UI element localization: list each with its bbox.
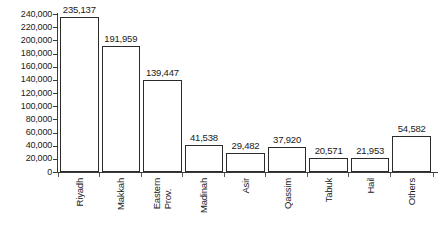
bar: [102, 46, 141, 172]
y-axis-tick-mark: [53, 172, 57, 173]
x-axis-category-label-line: Asir: [240, 178, 251, 194]
y-axis-tick-mark: [53, 146, 57, 147]
y-axis-tick-mark: [53, 54, 57, 55]
x-axis-category-label: Qassim: [282, 178, 293, 209]
y-axis-tick-mark: [53, 67, 57, 68]
bar-value-label: 37,920: [262, 135, 313, 145]
y-axis-tick-label: 120,000: [0, 89, 52, 98]
x-axis-category-label: Tabuk: [323, 178, 334, 202]
x-axis-tick-mark: [141, 173, 142, 177]
y-axis-tick-label: 240,000: [0, 10, 52, 19]
y-axis-tick-label: 200,000: [0, 36, 52, 45]
x-axis-category-label-line: Tabuk: [323, 178, 334, 202]
x-axis-category-label-line: Hail: [365, 178, 376, 194]
x-axis-category-label-line: Makkah: [115, 178, 126, 210]
x-axis-category-label: Riyadh: [74, 178, 85, 206]
y-axis-tick-mark: [53, 40, 57, 41]
bar: [226, 153, 265, 172]
y-axis-tick-label: 0: [0, 168, 52, 177]
y-axis-tick-label: 80,000: [0, 115, 52, 124]
x-axis-tick-mark: [348, 173, 349, 177]
x-axis-category-label: Makkah: [115, 178, 126, 210]
y-axis-tick-label: 160,000: [0, 62, 52, 71]
x-axis-category-label-line: Others: [406, 178, 417, 205]
bar-value-label: 54,582: [386, 124, 437, 134]
y-axis-tick-label: 40,000: [0, 141, 52, 150]
y-axis-tick-mark: [53, 119, 57, 120]
x-axis-line: [57, 172, 438, 173]
x-axis-tick-mark: [182, 173, 183, 177]
y-axis-tick-label: 220,000: [0, 23, 52, 32]
x-axis-tick-mark: [307, 173, 308, 177]
y-axis-tick-mark: [53, 93, 57, 94]
y-axis-tick-mark: [53, 27, 57, 28]
x-axis-category-label-line: Riyadh: [74, 178, 85, 206]
x-axis-tick-mark: [433, 173, 434, 177]
bar: [60, 17, 99, 172]
x-axis-tick-mark: [265, 173, 266, 177]
y-axis-tick-mark: [53, 159, 57, 160]
x-axis-category-label: Hail: [365, 178, 376, 194]
bar: [268, 147, 307, 172]
bar: [309, 158, 348, 172]
x-axis-category-label: Others: [406, 178, 417, 205]
bar-value-label: 191,959: [96, 34, 147, 44]
bar: [185, 145, 224, 172]
bar-value-label: 235,137: [54, 5, 105, 15]
x-axis-category-label-line: Prov.: [162, 178, 173, 209]
y-axis-tick-mark: [53, 80, 57, 81]
y-axis-tick-label: 140,000: [0, 75, 52, 84]
x-axis-tick-mark: [390, 173, 391, 177]
y-axis-tick-mark: [53, 133, 57, 134]
y-axis-tick-label: 20,000: [0, 154, 52, 163]
bar: [351, 158, 390, 172]
bar: [392, 136, 431, 172]
x-axis-tick-mark: [58, 173, 59, 177]
bar-chart: 240,000220,000200,000180,000160,000140,0…: [0, 0, 448, 236]
y-axis-tick-mark: [53, 106, 57, 107]
x-axis-category-label-line: Qassim: [282, 178, 293, 209]
x-axis-category-label: EasternProv.: [151, 178, 173, 209]
bar: [143, 80, 182, 172]
x-axis-tick-mark: [99, 173, 100, 177]
x-axis-category-label: Asir: [240, 178, 251, 194]
x-axis-category-label-line: Madinah: [198, 178, 209, 213]
y-axis-tick-label: 100,000: [0, 102, 52, 111]
x-axis-category-label: Madinah: [198, 178, 209, 213]
y-axis-tick-label: 180,000: [0, 49, 52, 58]
bar-value-label: 21,953: [345, 146, 396, 156]
y-axis-line: [57, 13, 58, 173]
y-axis: 240,000220,000200,000180,000160,000140,0…: [0, 0, 52, 236]
x-axis-tick-mark: [224, 173, 225, 177]
bar-value-label: 139,447: [137, 68, 188, 78]
y-axis-tick-label: 60,000: [0, 128, 52, 137]
x-axis-category-label-line: Eastern: [151, 178, 162, 209]
